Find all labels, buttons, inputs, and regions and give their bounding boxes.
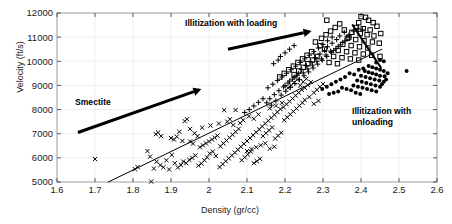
data-point-x — [177, 130, 181, 134]
data-point-circle — [349, 88, 353, 92]
y-tick-label: 8000 — [32, 104, 53, 115]
data-point-square — [377, 41, 381, 45]
arrow-shaft-illitization-with-loading — [228, 33, 304, 49]
data-point-x — [274, 104, 278, 108]
data-point-square — [378, 54, 382, 58]
y-tick-label: 9000 — [32, 80, 53, 91]
data-point-circle — [338, 77, 342, 81]
data-point-circle — [356, 85, 360, 89]
data-point-x — [254, 145, 258, 149]
data-point-circle — [334, 80, 338, 84]
data-point-square — [325, 18, 329, 22]
data-point-x — [217, 121, 221, 125]
data-point-x — [213, 135, 217, 139]
data-point-circle — [352, 73, 356, 77]
data-point-x — [185, 117, 189, 121]
x-tick-label: 1.7 — [88, 184, 101, 195]
data-point-square — [357, 20, 361, 24]
x-tick-label: 2.6 — [430, 184, 443, 195]
annotation-illitization-with-unloading: Illitization withunloading — [352, 106, 411, 128]
data-point-square — [331, 54, 335, 58]
data-point-x — [238, 121, 242, 125]
data-point-+ — [311, 65, 316, 70]
data-point-circle — [365, 87, 369, 91]
data-point-+ — [282, 50, 287, 55]
data-point-x — [247, 114, 251, 118]
series-unloading-filled — [320, 58, 408, 96]
data-point-x — [234, 108, 238, 112]
data-point-circle — [367, 70, 371, 74]
data-point-x — [149, 179, 153, 183]
data-point-circle — [357, 68, 361, 72]
data-point-circle — [327, 92, 331, 96]
data-point-square — [353, 51, 357, 55]
x-tick-label: 2 — [206, 184, 211, 195]
data-point-circle — [351, 83, 355, 87]
data-point-x — [258, 157, 262, 161]
data-point-+ — [270, 82, 275, 87]
data-point-x — [164, 158, 168, 162]
data-point-+ — [256, 100, 261, 105]
data-point-+ — [315, 62, 320, 67]
data-point-square — [313, 40, 317, 44]
data-point-x — [259, 143, 263, 147]
data-point-x — [154, 160, 158, 164]
data-point-square — [344, 49, 348, 53]
data-point-x — [167, 167, 171, 171]
data-point-+ — [247, 107, 252, 112]
data-point-+ — [292, 43, 297, 48]
data-point-circle — [332, 91, 336, 95]
data-point-circle — [354, 91, 358, 95]
data-point-+ — [251, 103, 256, 108]
y-tick-label: 10000 — [27, 56, 53, 67]
data-point-square — [333, 25, 337, 29]
data-point-x — [179, 163, 183, 167]
data-point-circle — [368, 76, 372, 80]
data-point-x — [307, 95, 311, 99]
data-point-circle — [370, 88, 374, 92]
data-point-x — [159, 134, 163, 138]
data-point-x — [214, 154, 218, 158]
arrow-head-illitization-with-loading — [303, 29, 312, 37]
data-point-x — [193, 153, 197, 157]
data-point-square — [365, 33, 369, 37]
data-point-circle — [340, 86, 344, 90]
data-point-circle — [374, 89, 378, 93]
data-point-x — [145, 149, 149, 153]
data-point-circle — [359, 74, 363, 78]
data-point-x — [252, 117, 256, 121]
data-point-x — [175, 135, 179, 139]
data-point-x — [188, 127, 192, 131]
data-point-+ — [306, 69, 311, 74]
data-point-circle — [370, 65, 374, 69]
data-point-circle — [370, 71, 374, 75]
data-point-+ — [267, 96, 272, 101]
data-point-+ — [272, 92, 277, 97]
data-point-circle — [382, 69, 386, 73]
data-point-circle — [405, 69, 409, 73]
data-point-square — [366, 18, 370, 22]
data-point-x — [231, 123, 235, 127]
data-point-circle — [374, 73, 378, 77]
data-point-circle — [348, 71, 352, 75]
data-point-circle — [378, 68, 382, 72]
data-point-square — [328, 29, 332, 33]
data-point-x — [270, 125, 274, 129]
data-point-circle — [373, 83, 377, 87]
data-point-square — [348, 57, 352, 61]
data-point-x — [225, 120, 229, 124]
y-tick-label: 11000 — [27, 32, 53, 43]
data-point-circle — [364, 81, 368, 85]
unloading-line1: Illitization with — [352, 106, 411, 116]
data-point-square — [324, 33, 328, 37]
x-tick-label: 2.2 — [278, 184, 291, 195]
data-point-circle — [358, 92, 362, 96]
annotation-smectite: Smectite — [75, 97, 111, 108]
data-point-x — [170, 153, 174, 157]
data-point-square — [340, 55, 344, 59]
data-point-circle — [325, 85, 329, 89]
data-point-x — [222, 108, 226, 112]
data-point-circle — [382, 59, 386, 63]
y-tick-label: 12000 — [27, 7, 53, 18]
data-point-circle — [378, 58, 382, 62]
